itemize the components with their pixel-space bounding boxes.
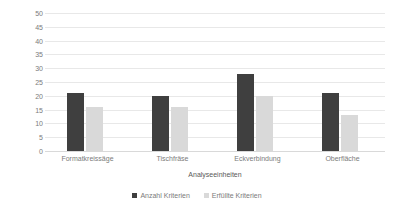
plot-area: [45, 13, 385, 151]
bar-chart: Kriterienanzahl 05101520253035404550 For…: [0, 0, 394, 205]
bar[interactable]: [67, 93, 84, 151]
legend-item[interactable]: Anzahl Kriterien: [132, 191, 189, 200]
bar-group: [130, 13, 215, 151]
bar[interactable]: [152, 96, 169, 151]
y-axis-tick-label: 35: [24, 51, 43, 58]
x-axis-category-label: Eckverbindung: [215, 154, 300, 163]
gridline: [45, 151, 385, 152]
x-axis-category-label: Formatkreissäge: [45, 154, 130, 163]
bar[interactable]: [341, 115, 358, 151]
legend-label: Erfüllte Kriterien: [212, 191, 262, 200]
bar-group: [215, 13, 300, 151]
bar-group: [45, 13, 130, 151]
x-axis-category-labels: FormatkreissägeTischfräseEckverbindungOb…: [45, 154, 385, 166]
bar-group: [300, 13, 385, 151]
x-axis-category-label: Tischfräse: [130, 154, 215, 163]
y-axis-tick-label: 40: [24, 37, 43, 44]
y-axis-tick-label: 50: [24, 10, 43, 17]
y-axis-tick-label: 15: [24, 106, 43, 113]
legend-swatch-icon: [204, 193, 209, 198]
bars-layer: [45, 13, 385, 151]
legend-swatch-icon: [132, 193, 137, 198]
y-axis-tick-label: 45: [24, 23, 43, 30]
legend-item[interactable]: Erfüllte Kriterien: [204, 191, 262, 200]
legend-label: Anzahl Kriterien: [140, 191, 189, 200]
y-axis-tick-label: 20: [24, 92, 43, 99]
bar[interactable]: [86, 107, 103, 151]
y-axis-tick-label: 5: [24, 134, 43, 141]
bar[interactable]: [237, 74, 254, 151]
bar[interactable]: [322, 93, 339, 151]
bar[interactable]: [171, 107, 188, 151]
x-axis-title: Analyseeinheiten: [45, 170, 385, 179]
y-axis-tick-labels: 05101520253035404550: [24, 13, 43, 151]
y-axis-tick-label: 30: [24, 65, 43, 72]
x-axis-category-label: Oberfläche: [300, 154, 385, 163]
y-axis-tick-label: 25: [24, 79, 43, 86]
y-axis-tick-label: 0: [24, 148, 43, 155]
legend: Anzahl KriterienErfüllte Kriterien: [0, 191, 394, 200]
bar[interactable]: [256, 96, 273, 151]
y-axis-tick-label: 10: [24, 120, 43, 127]
